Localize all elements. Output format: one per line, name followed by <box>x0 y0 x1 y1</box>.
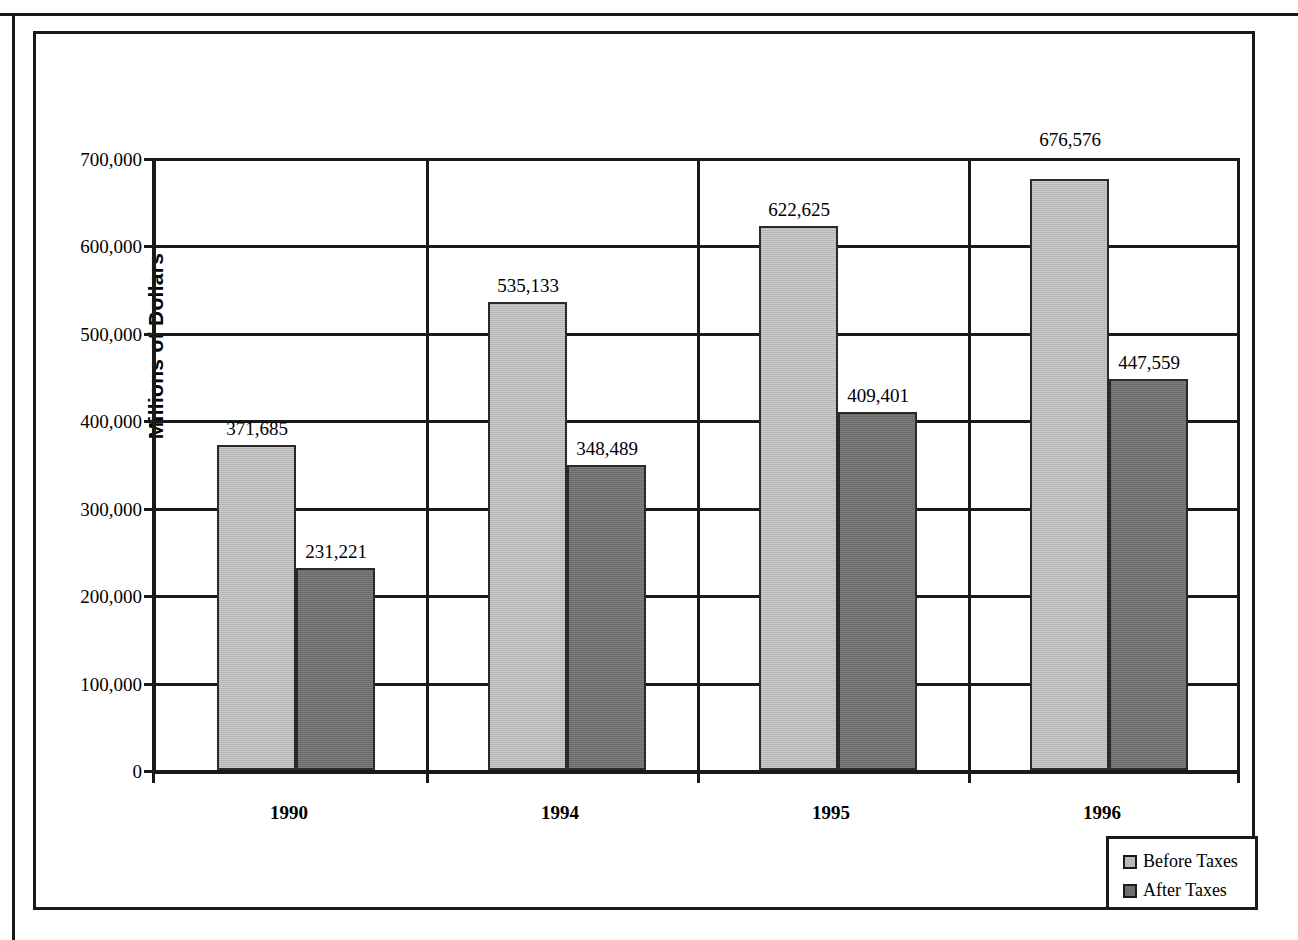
chart-frame: Millions of Dollars 700,000 600,000 <box>33 31 1255 910</box>
chart-legend: Before Taxes After Taxes <box>1106 836 1258 910</box>
legend-item-before-taxes[interactable]: Before Taxes <box>1123 848 1255 875</box>
plot-area: 700,000 600,000 500,000 400,000 300,000 … <box>155 158 1240 770</box>
bar-value-before-taxes-1994: 535,133 <box>443 276 613 295</box>
category-divider-3 <box>968 158 971 770</box>
y-tick-mark-500000 <box>144 333 156 336</box>
plot-right-edge <box>1237 158 1240 770</box>
legend-swatch-after-taxes-icon <box>1123 884 1137 898</box>
legend-swatch-before-taxes-icon <box>1123 855 1137 869</box>
category-divider-1 <box>426 158 429 770</box>
y-tick-label-0: 0 <box>2 762 142 781</box>
bar-after-taxes-1996[interactable] <box>1109 379 1188 770</box>
y-tick-label-600000: 600,000 <box>2 237 142 256</box>
legend-label-after-taxes: After Taxes <box>1143 880 1227 901</box>
bar-value-after-taxes-1996: 447,559 <box>1064 353 1234 372</box>
bar-before-taxes-1990[interactable] <box>217 445 296 770</box>
bar-before-taxes-1995[interactable] <box>759 226 838 770</box>
bar-value-before-taxes-1990: 371,685 <box>172 419 342 438</box>
category-divider-2 <box>697 158 700 770</box>
legend-item-after-taxes[interactable]: After Taxes <box>1123 877 1255 904</box>
x-category-label-1996: 1996 <box>1002 802 1202 824</box>
x-category-label-1990: 1990 <box>189 802 389 824</box>
y-tick-label-300000: 300,000 <box>2 500 142 519</box>
bar-value-after-taxes-1995: 409,401 <box>793 386 963 405</box>
chart-page: Millions of Dollars 700,000 600,000 <box>0 0 1298 940</box>
bar-value-after-taxes-1994: 348,489 <box>522 439 692 458</box>
y-tick-label-100000: 100,000 <box>2 675 142 694</box>
bar-value-before-taxes-1995: 622,625 <box>714 200 884 219</box>
x-tick-mark-3 <box>968 771 971 783</box>
y-tick-label-400000: 400,000 <box>2 412 142 431</box>
x-tick-mark-4 <box>1237 771 1240 783</box>
y-tick-mark-700000 <box>144 158 156 161</box>
bar-value-before-taxes-1996: 676,576 <box>985 130 1155 149</box>
page-border-top-rule <box>0 13 1298 16</box>
y-tick-mark-100000 <box>144 683 156 686</box>
x-category-label-1995: 1995 <box>731 802 931 824</box>
bar-after-taxes-1994[interactable] <box>567 465 646 770</box>
y-tick-label-700000: 700,000 <box>2 150 142 169</box>
bar-after-taxes-1995[interactable] <box>838 412 917 770</box>
bar-after-taxes-1990[interactable] <box>296 568 375 770</box>
bar-value-after-taxes-1990: 231,221 <box>251 542 421 561</box>
bar-before-taxes-1994[interactable] <box>488 302 567 770</box>
x-tick-mark-2 <box>697 771 700 783</box>
y-tick-label-500000: 500,000 <box>2 325 142 344</box>
y-tick-mark-300000 <box>144 508 156 511</box>
legend-label-before-taxes: Before Taxes <box>1143 851 1238 872</box>
x-tick-mark-0 <box>152 771 155 783</box>
bar-before-taxes-1996[interactable] <box>1030 179 1109 770</box>
x-tick-mark-1 <box>426 771 429 783</box>
x-category-label-1994: 1994 <box>460 802 660 824</box>
y-tick-mark-600000 <box>144 245 156 248</box>
y-tick-label-200000: 200,000 <box>2 587 142 606</box>
y-axis-line <box>152 158 156 774</box>
y-tick-mark-200000 <box>144 595 156 598</box>
y-tick-mark-400000 <box>144 420 156 423</box>
